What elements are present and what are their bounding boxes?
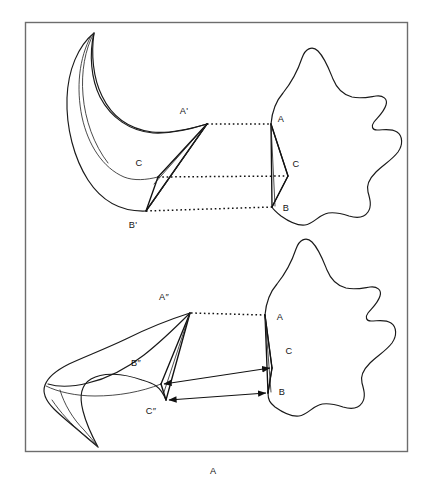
label-b-prime: B' xyxy=(129,220,137,230)
upper-panel xyxy=(67,33,402,225)
label-b-lower: B xyxy=(279,387,285,397)
triangle-a-b-c-lower xyxy=(265,315,272,393)
label-a-prime: A' xyxy=(180,106,188,116)
label-c-lower: C xyxy=(286,346,293,356)
triangle-a-b-c-upper xyxy=(271,124,288,207)
lower-panel xyxy=(44,239,396,447)
corr-c xyxy=(158,176,288,177)
crescent-upper xyxy=(67,33,207,211)
star-blob-upper xyxy=(271,48,402,225)
label-a-lower: A xyxy=(277,312,284,322)
triangle-a-b-c-prime xyxy=(146,124,207,211)
label-c-double-prime: C″ xyxy=(146,406,157,416)
figure-canvas: A' C B' A C B A″ B″ C″ A C B A xyxy=(0,0,427,484)
triangle-a-b-c-double-prime xyxy=(161,313,190,400)
corr-b xyxy=(146,207,272,211)
label-c-prime: C xyxy=(136,158,143,168)
label-c: C xyxy=(293,159,300,169)
label-a-double-prime: A″ xyxy=(159,292,169,302)
figure-caption: A xyxy=(210,466,217,476)
corr-c-lower xyxy=(164,368,270,384)
corr-a-lower xyxy=(191,313,265,315)
corr-b-lower xyxy=(169,393,266,400)
figure-root: A' C B' A C B A″ B″ C″ A C B A xyxy=(0,0,427,484)
label-b: B xyxy=(283,203,289,213)
label-a: A xyxy=(278,114,285,124)
label-b-double-prime: B″ xyxy=(131,358,141,368)
